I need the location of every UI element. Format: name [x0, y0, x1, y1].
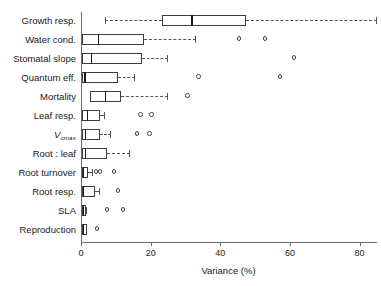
median-line	[87, 110, 88, 121]
median-line	[85, 148, 86, 159]
x-tick	[81, 242, 82, 246]
plot-area	[81, 12, 377, 240]
outlier-point	[263, 36, 267, 40]
outlier-point	[98, 169, 102, 173]
outlier-point	[292, 55, 296, 59]
outlier-point	[116, 188, 120, 192]
y-axis-category-labels: Growth resp.Water cond.Stomatal slopeQua…	[0, 12, 76, 240]
whisker-high	[142, 58, 169, 59]
x-tick-label: 0	[78, 248, 83, 258]
y-axis-label-reproduction: Reproduction	[19, 225, 76, 235]
outlier-point	[95, 226, 99, 230]
outlier-point	[149, 112, 153, 116]
y-axis-label-quantum-eff: Quantum eff.	[21, 73, 76, 83]
whisker-high-cap	[92, 169, 93, 176]
y-axis-label-mortality: Mortality	[40, 92, 76, 102]
y-axis-label-water-cond: Water cond.	[25, 35, 76, 45]
median-line	[98, 34, 99, 45]
box	[162, 15, 246, 26]
median-line	[191, 15, 192, 26]
whisker-high-cap	[195, 36, 196, 43]
outlier-point	[112, 169, 116, 173]
x-tick	[151, 242, 152, 246]
y-axis-label-growth-resp: Growth resp.	[22, 16, 76, 26]
x-axis-title-text: Variance (%)	[201, 265, 255, 276]
whisker-high-cap	[104, 112, 105, 119]
boxplot-row	[81, 126, 377, 144]
box	[82, 110, 100, 121]
outlier-point	[147, 131, 151, 135]
x-tick	[360, 242, 361, 246]
y-axis-label-leaf-resp: Leaf resp.	[34, 111, 76, 121]
boxplot-row	[81, 202, 377, 220]
outlier-point	[185, 93, 189, 97]
whisker-low	[105, 20, 162, 21]
median-line	[83, 167, 84, 178]
outlier-point	[105, 207, 109, 211]
boxplot-row	[81, 145, 377, 163]
y-axis-label-root-leaf: Root : leaf	[33, 149, 76, 159]
median-line	[83, 224, 84, 235]
median-line	[91, 53, 92, 64]
y-axis-label-sla: SLA	[58, 206, 76, 216]
x-tick	[290, 242, 291, 246]
boxplot-row	[81, 183, 377, 201]
whisker-high-cap	[86, 207, 87, 214]
whisker-high-cap	[110, 131, 111, 138]
median-line	[85, 129, 86, 140]
median-line	[83, 205, 84, 216]
outlier-point	[138, 112, 142, 116]
y-axis-label-vcmax: Vcmax	[54, 130, 76, 143]
x-tick-label: 40	[215, 248, 225, 258]
x-tick-label: 60	[285, 248, 295, 258]
box	[82, 72, 118, 83]
y-axis-label-stomatal-slope: Stomatal slope	[13, 54, 76, 64]
median-line	[84, 72, 85, 83]
boxplot-row	[81, 31, 377, 49]
whisker-high	[107, 153, 130, 154]
boxplot-row	[81, 12, 377, 30]
y-axis-label-root-turnover: Root turnover	[18, 168, 76, 178]
boxplot-row	[81, 164, 377, 182]
x-tick-label: 20	[146, 248, 156, 258]
boxplot-row	[81, 88, 377, 106]
whisker-high	[118, 77, 135, 78]
box	[82, 34, 144, 45]
whisker-high	[121, 96, 169, 97]
y-axis-label-root-resp: Root resp.	[32, 187, 76, 197]
x-axis-line	[81, 242, 377, 243]
whisker-high-cap	[129, 150, 130, 157]
outlier-point	[121, 207, 125, 211]
whisker-high-cap	[167, 55, 168, 62]
outlier-point	[196, 74, 200, 78]
median-line	[105, 91, 106, 102]
outlier-point	[135, 131, 139, 135]
x-tick	[220, 242, 221, 246]
boxplot-row	[81, 50, 377, 68]
boxplot-row	[81, 221, 377, 239]
whisker-high-cap	[134, 74, 135, 81]
boxplot-chart: Growth resp.Water cond.Stomatal slopeQua…	[0, 0, 381, 286]
outlier-point	[278, 74, 282, 78]
boxplot-row	[81, 107, 377, 125]
whisker-low-cap	[105, 17, 106, 24]
whisker-high-cap	[167, 93, 168, 100]
x-axis-title: Variance (%)	[0, 265, 381, 276]
whisker-high-cap	[99, 188, 100, 195]
whisker-high-cap	[376, 17, 377, 24]
x-tick-label: 80	[355, 248, 365, 258]
boxplot-row	[81, 69, 377, 87]
whisker-high	[246, 20, 377, 21]
median-line	[83, 186, 84, 197]
outlier-point	[237, 36, 241, 40]
whisker-high	[144, 39, 196, 40]
